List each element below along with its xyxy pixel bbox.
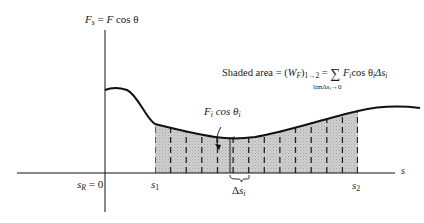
force-curve <box>105 88 420 138</box>
shaded-area <box>155 111 358 173</box>
s2-label: s2 <box>352 180 360 191</box>
delta-brace <box>230 175 249 182</box>
force-component-label: Fi cos θi <box>204 106 241 117</box>
sum-limit: limΔsi→0 <box>313 84 341 91</box>
x-axis-label: s <box>401 166 405 176</box>
s1-label: s1 <box>151 179 159 190</box>
y-axis-label: Fs = F cos θ <box>85 14 139 25</box>
delta-s-label: Δsi <box>232 185 246 196</box>
origin-label: sR = 0 <box>77 179 103 190</box>
area-formula: Shaded area = (WF)1→2 = ∑ Ficos θiΔsi <box>222 67 387 81</box>
